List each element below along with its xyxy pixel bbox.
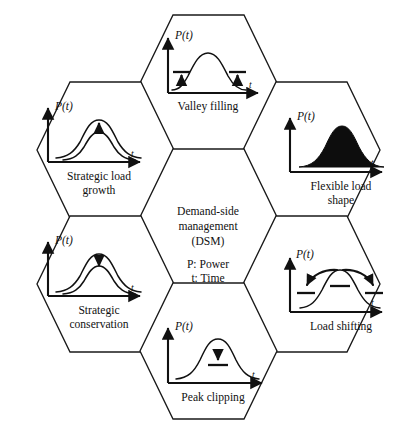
- dsm-diagram: P(t) t Valley filling P(t) t Strategic l…: [0, 0, 417, 447]
- x-axis-label: t: [249, 80, 252, 90]
- cell-label-strategic-conservation-2: conservation: [69, 318, 128, 331]
- center-line-3: (DSM): [192, 235, 225, 248]
- center-line-1: Demand-side: [177, 205, 239, 218]
- y-axis-label: P(t): [54, 234, 73, 247]
- y-axis-label: P(t): [54, 100, 73, 113]
- cell-label-strategic-load-growth-1: Strategic load: [67, 170, 131, 183]
- cell-label-strategic-load-growth-2: growth: [83, 184, 116, 197]
- y-axis-label: P(t): [295, 248, 314, 261]
- cell-label-peak-clipping: Peak clipping: [181, 391, 245, 404]
- center-line-2: management: [178, 220, 238, 233]
- dsm-diagram-canvas: P(t) t Valley filling P(t) t Strategic l…: [0, 0, 417, 447]
- cell-label-flexible-load-shape-1: Flexible load: [311, 180, 372, 193]
- cell-label-load-shifting: Load shifting: [310, 320, 372, 333]
- x-axis-label: t: [131, 149, 134, 159]
- cell-label-valley-filling: Valley filling: [178, 100, 239, 113]
- cell-label-flexible-load-shape-2: shape: [328, 194, 354, 207]
- y-axis-label: P(t): [174, 29, 193, 42]
- center-legend-power: P: Power: [187, 258, 229, 271]
- y-axis-label: P(t): [296, 110, 315, 123]
- center-legend-time: t: Time: [191, 272, 224, 285]
- x-axis-label: t: [131, 283, 134, 293]
- cell-label-strategic-conservation-1: Strategic: [78, 304, 119, 317]
- y-axis-label: P(t): [174, 320, 193, 333]
